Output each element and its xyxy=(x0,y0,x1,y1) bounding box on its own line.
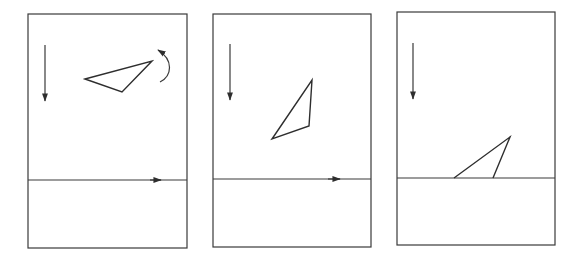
panel-frame xyxy=(397,12,555,245)
panel-frame xyxy=(28,14,187,248)
triangle xyxy=(454,137,510,178)
panel-3 xyxy=(397,12,555,245)
triangle xyxy=(272,80,312,139)
panel-1 xyxy=(28,14,187,248)
falling-triangle-diagram xyxy=(0,0,579,261)
panel-frame xyxy=(213,14,371,247)
panel-2 xyxy=(213,14,371,247)
rotation-arrow-icon xyxy=(158,50,170,82)
triangle xyxy=(85,61,152,92)
